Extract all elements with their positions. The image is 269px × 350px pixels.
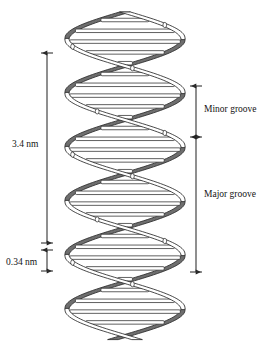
minor-groove-label: Minor groove xyxy=(204,105,257,115)
rise-label: 0.34 nm xyxy=(6,258,37,268)
rise-dimension-group xyxy=(41,250,53,271)
dna-helix-illustration xyxy=(0,0,269,350)
minor-groove-dimension-group xyxy=(190,86,202,137)
major-groove-label: Major groove xyxy=(204,190,256,200)
pitch-dimension-group xyxy=(41,53,53,243)
double-helix-body xyxy=(65,12,185,340)
pitch-label: 3.4 nm xyxy=(12,140,38,150)
dna-helix-figure: 3.4 nm 0.34 nm Minor groove Major groove xyxy=(0,0,269,350)
major-groove-dimension-group xyxy=(190,137,202,272)
